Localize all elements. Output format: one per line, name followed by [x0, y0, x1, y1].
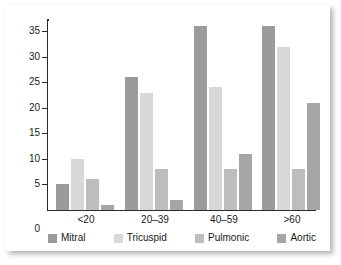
legend-label: Aortic: [290, 233, 316, 243]
bar: [140, 93, 153, 210]
bar-group: [262, 21, 322, 210]
bar: [155, 169, 168, 210]
legend-label: Mitral: [61, 233, 85, 243]
bar: [194, 26, 207, 210]
bar: [277, 47, 290, 210]
y-tick-mark: [42, 57, 48, 58]
chart-card: 05101520253035 <2020–3940–59>60 MitralTr…: [6, 5, 330, 251]
y-tick-mark: [42, 82, 48, 83]
bar: [209, 87, 222, 210]
y-tick-label: 20: [10, 103, 40, 113]
bar: [170, 200, 183, 210]
y-tick-label: 25: [10, 77, 40, 87]
y-tick-mark: [42, 108, 48, 109]
bar: [292, 169, 305, 210]
legend-label: Tricuspid: [127, 233, 167, 243]
y-tick-label: 10: [10, 154, 40, 164]
y-tick-label: 35: [10, 26, 40, 36]
bar: [224, 169, 237, 210]
plot-area: [48, 21, 311, 210]
legend-swatch-icon: [114, 234, 123, 243]
bar: [125, 77, 138, 210]
bar-group: [56, 21, 116, 210]
y-tick-mark: [42, 31, 48, 32]
bar: [56, 184, 69, 210]
legend-item-tricuspid[interactable]: Tricuspid: [114, 233, 167, 243]
x-tick-label: >60: [248, 214, 336, 226]
bar-group: [194, 21, 254, 210]
bar: [239, 154, 252, 210]
legend-swatch-icon: [48, 234, 57, 243]
bar: [71, 159, 84, 210]
legend-item-aortic[interactable]: Aortic: [277, 233, 316, 243]
legend-swatch-icon: [195, 234, 204, 243]
legend-item-pulmonic[interactable]: Pulmonic: [195, 233, 249, 243]
bar: [307, 103, 320, 210]
y-axis-labels: 05101520253035: [6, 5, 40, 251]
legend-item-mitral[interactable]: Mitral: [48, 233, 85, 243]
bar: [101, 205, 114, 210]
y-tick-mark: [42, 133, 48, 134]
legend-swatch-icon: [277, 234, 286, 243]
y-tick-label: 15: [10, 128, 40, 138]
y-tick-mark: [42, 184, 48, 185]
y-tick-label: 5: [10, 179, 40, 189]
legend-label: Pulmonic: [208, 233, 249, 243]
y-tick-label: 0: [10, 224, 40, 234]
chart-legend: MitralTricuspidPulmonicAortic: [48, 231, 316, 245]
bar: [86, 179, 99, 210]
bar: [262, 26, 275, 210]
bar-group: [125, 21, 185, 210]
y-tick-mark: [42, 159, 48, 160]
y-tick-label: 30: [10, 52, 40, 62]
